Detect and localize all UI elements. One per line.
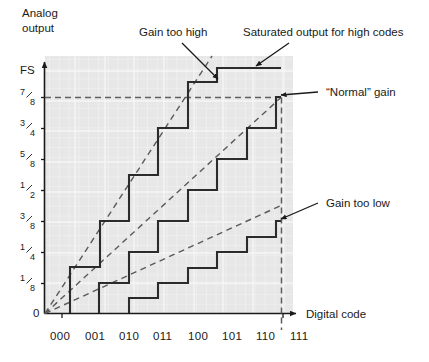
y-tick-label-5-8: 5 8	[20, 149, 35, 169]
y-tick-label-3-4: 3 4	[20, 118, 35, 138]
y-tick-label-fs: FS	[20, 64, 35, 76]
x-tick-label-011: 011	[153, 330, 172, 342]
frac-numerator: 3	[20, 118, 25, 128]
annotation-gain-too-low: Gain too low	[326, 197, 391, 209]
x-tick-label-000: 000	[50, 330, 70, 342]
plot-background	[45, 56, 293, 314]
frac-denominator: 8	[30, 283, 35, 293]
annotation-gain-too-high: Gain too high	[139, 26, 207, 38]
frac-numerator: 1	[20, 242, 25, 252]
x-axis-title: Digital code	[306, 308, 366, 320]
y-tick-label-1-8: 1 8	[20, 273, 35, 293]
frac-numerator: 3	[20, 211, 25, 221]
frac-denominator: 8	[30, 97, 35, 107]
adc-gain-error-diagram: Gain too high Saturated output for high …	[0, 0, 429, 362]
frac-numerator: 7	[20, 87, 25, 97]
x-tick-label-110: 110	[256, 330, 275, 342]
x-tick-label-100: 100	[188, 330, 208, 342]
frac-denominator: 4	[30, 252, 35, 262]
y-tick-label-1-4: 1 4	[20, 242, 35, 262]
frac-denominator: 4	[30, 128, 35, 138]
frac-denominator: 8	[30, 221, 35, 231]
x-tick-label-111: 111	[290, 330, 308, 342]
frac-numerator: 1	[20, 273, 25, 283]
y-tick-label-7-8: 7 8	[20, 87, 35, 107]
y-axis-title-line1: Analog	[22, 7, 58, 19]
y-axis-title-line2: output	[22, 22, 55, 34]
frac-denominator: 8	[30, 159, 35, 169]
annotation-saturated-output: Saturated output for high codes	[243, 26, 404, 38]
y-tick-label-3-8: 3 8	[20, 211, 35, 231]
frac-denominator: 2	[30, 190, 35, 200]
x-tick-label-001: 001	[85, 330, 105, 342]
y-tick-label-1-2: 1 2	[20, 180, 35, 200]
y-tick-label-zero: 0	[33, 307, 39, 319]
frac-numerator: 5	[20, 149, 25, 159]
frac-numerator: 1	[20, 180, 25, 190]
x-tick-label-101: 101	[222, 330, 242, 342]
annotation-normal-gain: “Normal” gain	[326, 86, 396, 98]
x-tick-label-010: 010	[119, 330, 139, 342]
